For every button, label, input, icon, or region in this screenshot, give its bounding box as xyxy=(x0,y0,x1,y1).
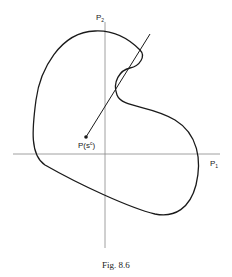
point-label-text: P(s xyxy=(78,141,90,150)
p1-label-sub: 1 xyxy=(215,163,218,169)
p1-axis-label: P1 xyxy=(210,160,218,169)
point-label-close: ) xyxy=(93,141,96,150)
closed-curve xyxy=(33,31,198,215)
figure-caption: Fig. 8.6 xyxy=(0,260,232,270)
p2-axis-label: P2 xyxy=(96,14,104,23)
ray-line xyxy=(86,34,150,137)
point-marker xyxy=(84,135,88,139)
p2-label-sub: 2 xyxy=(101,17,104,23)
point-label: P(sc) xyxy=(78,141,95,150)
diagram-canvas xyxy=(0,0,232,277)
